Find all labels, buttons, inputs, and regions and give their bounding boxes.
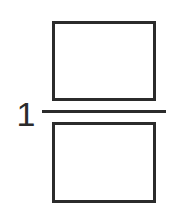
numerator-answer-box[interactable] (52, 21, 156, 101)
fraction-group (42, 21, 166, 203)
figure-canvas: 1 (0, 0, 182, 213)
denominator-answer-box[interactable] (52, 122, 156, 203)
fraction-bar (42, 110, 166, 113)
whole-number-value: 1 (13, 96, 39, 132)
